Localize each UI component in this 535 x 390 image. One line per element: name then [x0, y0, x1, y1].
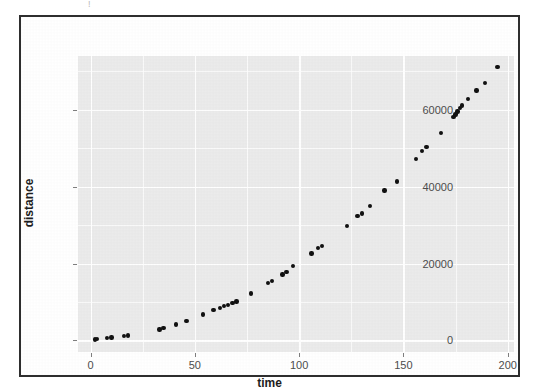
- gridline-major-vertical: [403, 56, 404, 352]
- plot-area: 0501001502000200004000060000 time distan…: [21, 17, 518, 375]
- gridline-minor-vertical: [143, 56, 144, 352]
- data-point: [109, 335, 113, 339]
- data-point: [211, 308, 215, 312]
- x-axis-tick-label: 200: [499, 359, 517, 371]
- y-axis-tick: [73, 187, 77, 188]
- data-point: [174, 322, 178, 326]
- data-point: [395, 179, 399, 183]
- data-point: [291, 264, 295, 268]
- gridline-major-vertical: [299, 56, 300, 352]
- gridline-minor-horizontal: [78, 302, 514, 303]
- x-axis-tick-label: 0: [87, 359, 93, 371]
- y-axis-tick-label: 20000: [406, 258, 453, 270]
- data-point: [309, 251, 313, 255]
- y-axis-title: distance: [22, 173, 36, 233]
- y-axis-tick: [73, 340, 77, 341]
- data-point: [460, 103, 464, 107]
- x-axis-tick: [299, 353, 300, 357]
- y-axis-tick-label: 40000: [406, 181, 453, 193]
- x-axis-tick: [508, 353, 509, 357]
- y-axis-tick-label: 0: [406, 334, 453, 346]
- x-axis-tick-label: 150: [394, 359, 412, 371]
- gridline-minor-vertical: [351, 56, 352, 352]
- gridline-minor-vertical: [247, 56, 248, 352]
- x-axis-tick-label: 100: [290, 359, 308, 371]
- data-point: [360, 211, 364, 215]
- gridline-major-vertical: [91, 56, 92, 352]
- x-axis-title: time: [21, 376, 518, 390]
- data-point: [483, 81, 487, 85]
- data-point: [126, 333, 130, 337]
- y-axis-tick: [73, 264, 77, 265]
- y-axis-tick: [73, 110, 77, 111]
- data-point: [495, 65, 499, 69]
- scan-artifact: !: [88, 0, 102, 9]
- data-point: [284, 270, 288, 274]
- gridline-minor-horizontal: [78, 71, 514, 72]
- data-point: [234, 299, 238, 303]
- gridline-major-vertical: [508, 56, 509, 352]
- figure-frame: 0501001502000200004000060000 time distan…: [19, 15, 520, 377]
- data-point: [95, 337, 99, 341]
- gridline-minor-horizontal: [78, 225, 514, 226]
- data-point: [424, 145, 428, 149]
- x-axis-tick: [403, 353, 404, 357]
- data-point: [249, 291, 253, 295]
- data-point: [201, 312, 205, 316]
- x-axis-tick: [91, 353, 92, 357]
- data-point: [382, 188, 386, 192]
- panel-gridlines: [78, 56, 514, 352]
- gridline-major-vertical: [195, 56, 196, 352]
- data-point: [161, 326, 165, 330]
- data-point: [474, 88, 478, 92]
- plot-panel: [78, 56, 514, 352]
- y-axis-tick-label: 60000: [406, 104, 453, 116]
- x-axis-tick: [195, 353, 196, 357]
- gridline-minor-vertical: [456, 56, 457, 352]
- gridline-minor-horizontal: [78, 148, 514, 149]
- x-axis-tick-label: 50: [189, 359, 201, 371]
